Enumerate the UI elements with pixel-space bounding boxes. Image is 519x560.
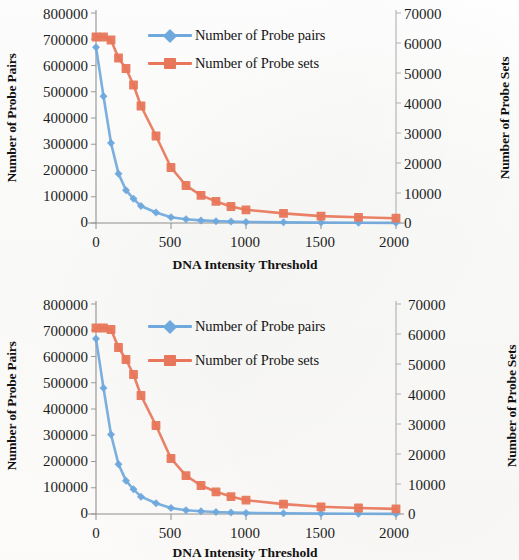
diamond-marker-icon: [92, 335, 100, 343]
square-marker-icon: [197, 191, 206, 200]
square-marker-icon: [227, 492, 236, 501]
square-marker-icon: [167, 454, 176, 463]
y-tick-left-500000: 500000: [10, 85, 88, 100]
chart-figure-top: Number of Probe Pairs Number of Probe Se…: [0, 0, 519, 280]
y-tick-right-20000: 20000: [404, 157, 474, 172]
diamond-marker-icon: [227, 218, 235, 226]
square-marker-icon: [107, 325, 116, 334]
y-tick-right-50000: 50000: [404, 67, 474, 82]
diamond-marker-icon: [167, 213, 175, 221]
diamond-marker-icon: [182, 506, 190, 514]
diamond-marker-icon: [242, 509, 250, 517]
y-tick-left-0: 0: [10, 215, 88, 230]
y-tick-left-800000: 800000: [10, 7, 88, 22]
square-marker-icon: [152, 421, 161, 430]
square-marker-icon: [137, 102, 146, 111]
series-line: [96, 47, 396, 223]
diamond-marker-icon: [115, 460, 123, 468]
y-tick-right-50000-b: 50000: [408, 358, 478, 373]
diamond-marker-icon: [280, 509, 288, 517]
y-tick-left-600000-b: 600000: [10, 350, 88, 365]
square-marker-icon: [212, 487, 221, 496]
square-marker-icon: [197, 481, 206, 490]
square-marker-icon: [242, 496, 251, 505]
square-marker-icon: [99, 33, 108, 42]
diamond-marker-icon: [212, 217, 220, 225]
square-marker-icon: [129, 370, 138, 379]
square-marker-icon: [92, 33, 101, 42]
chart-figure-bottom: Number of Probe Pairs Number of Probe Se…: [0, 280, 519, 560]
series-line: [96, 328, 396, 509]
y-tick-left-500000-b: 500000: [10, 376, 88, 391]
y-tick-right-0-b: 0: [408, 507, 478, 522]
square-marker-icon: [114, 343, 123, 352]
y-tick-left-0-b: 0: [10, 506, 88, 521]
y-tick-left-700000-b: 700000: [10, 324, 88, 339]
diamond-marker-icon: [152, 499, 160, 507]
diamond-marker-icon: [100, 384, 108, 392]
square-marker-icon: [227, 202, 236, 211]
y-tick-left-100000: 100000: [10, 189, 88, 204]
y-tick-right-70000: 70000: [404, 7, 474, 22]
square-marker-icon: [279, 500, 288, 509]
square-marker-icon: [242, 205, 251, 214]
square-marker-icon: [392, 214, 401, 223]
square-marker-icon: [182, 181, 191, 190]
y-axis-right-title-bottom: Number of Probe Sets: [504, 326, 519, 486]
square-marker-icon: [212, 197, 221, 206]
y-tick-right-60000-b: 60000: [408, 328, 478, 343]
diamond-marker-icon: [152, 209, 160, 217]
square-marker-icon: [279, 209, 288, 218]
plot-area-top: [80, 5, 410, 245]
square-marker-icon: [182, 471, 191, 480]
diamond-marker-icon: [115, 170, 123, 178]
square-marker-icon: [152, 132, 161, 141]
y-tick-left-300000-b: 300000: [10, 428, 88, 443]
square-marker-icon: [317, 502, 326, 511]
diamond-marker-icon: [107, 139, 115, 147]
square-marker-icon: [354, 213, 363, 222]
square-marker-icon: [122, 64, 131, 73]
y-tick-right-30000: 30000: [404, 127, 474, 142]
diamond-marker-icon: [212, 508, 220, 516]
y-tick-left-200000-b: 200000: [10, 454, 88, 469]
square-marker-icon: [114, 54, 123, 63]
square-marker-icon: [317, 212, 326, 221]
diamond-marker-icon: [92, 43, 100, 51]
y-tick-right-10000: 10000: [404, 187, 474, 202]
square-marker-icon: [122, 355, 131, 364]
series-probe-sets: [92, 33, 401, 223]
y-axis-right-title-top: Number of Probe Sets: [497, 38, 513, 198]
y-tick-right-10000-b: 10000: [408, 478, 478, 493]
square-marker-icon: [99, 324, 108, 333]
series-probe-pairs: [92, 335, 400, 518]
y-tick-right-40000: 40000: [404, 97, 474, 112]
diamond-marker-icon: [280, 218, 288, 226]
x-axis-title-top: DNA Intensity Threshold: [95, 257, 395, 273]
series-probe-sets: [92, 324, 401, 514]
y-tick-left-300000: 300000: [10, 137, 88, 152]
square-marker-icon: [92, 324, 101, 333]
y-tick-right-0: 0: [404, 216, 474, 231]
plot-area-bottom: [80, 296, 410, 536]
y-tick-right-20000-b: 20000: [408, 448, 478, 463]
square-marker-icon: [167, 163, 176, 172]
y-tick-right-60000: 60000: [404, 37, 474, 52]
square-marker-icon: [354, 504, 363, 513]
y-tick-right-40000-b: 40000: [408, 388, 478, 403]
series-line: [96, 339, 396, 514]
y-tick-left-600000: 600000: [10, 59, 88, 74]
square-marker-icon: [137, 391, 146, 400]
y-tick-left-700000: 700000: [10, 33, 88, 48]
y-tick-left-800000-b: 800000: [10, 298, 88, 313]
y-tick-right-70000-b: 70000: [408, 298, 478, 313]
y-tick-left-400000-b: 400000: [10, 402, 88, 417]
square-marker-icon: [392, 505, 401, 514]
y-tick-right-30000-b: 30000: [408, 418, 478, 433]
y-tick-left-400000: 400000: [10, 111, 88, 126]
y-tick-left-200000: 200000: [10, 163, 88, 178]
square-marker-icon: [129, 81, 138, 90]
square-marker-icon: [107, 36, 116, 45]
diamond-marker-icon: [167, 504, 175, 512]
diamond-marker-icon: [242, 218, 250, 226]
